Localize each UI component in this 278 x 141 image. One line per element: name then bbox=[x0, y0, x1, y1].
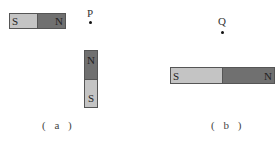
caption-b: ( b ) bbox=[211, 120, 244, 131]
pole-label: S bbox=[12, 15, 18, 27]
caption-a: ( a ) bbox=[42, 120, 75, 131]
pole-label: N bbox=[55, 15, 63, 27]
point-q-dot bbox=[221, 31, 224, 34]
magnet-b-south-pole: S bbox=[171, 68, 223, 83]
point-q-label: Q bbox=[218, 16, 226, 27]
magnet-a-horizontal: S N bbox=[9, 13, 66, 29]
pole-label: N bbox=[264, 70, 272, 82]
magnet-b-horizontal: S N bbox=[170, 67, 275, 84]
magnet-a-horizontal-south-pole: S bbox=[10, 14, 38, 28]
magnet-a-horizontal-north-pole: N bbox=[38, 14, 65, 28]
magnet-a-vertical-south-pole: S bbox=[85, 80, 97, 108]
magnet-a-vertical: N S bbox=[84, 50, 98, 108]
pole-label: N bbox=[87, 54, 95, 66]
magnet-a-vertical-north-pole: N bbox=[85, 51, 97, 80]
magnet-b-north-pole: N bbox=[223, 68, 274, 83]
pole-label: S bbox=[88, 92, 94, 104]
pole-label: S bbox=[173, 70, 179, 82]
point-p-dot bbox=[89, 21, 92, 24]
point-p-label: P bbox=[87, 8, 93, 19]
